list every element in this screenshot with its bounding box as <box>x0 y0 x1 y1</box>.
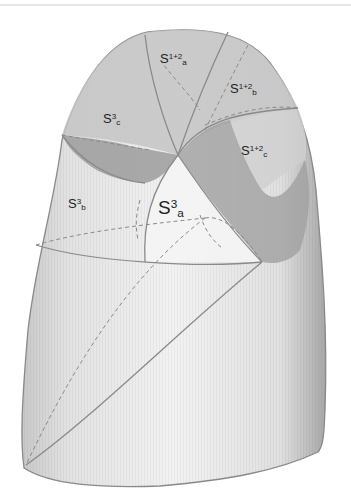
label-sub: c <box>116 118 120 127</box>
lung-lobe-diagram <box>0 0 351 501</box>
label-base: S <box>241 143 250 158</box>
label-sup: 1+2 <box>169 52 183 61</box>
label-s12a: S1+2a <box>160 52 187 67</box>
label-sub: a <box>182 58 186 67</box>
label-base: S <box>230 81 239 96</box>
label-s12b: S1+2b <box>230 82 257 97</box>
label-sub: b <box>81 203 85 212</box>
label-sup: 1+2 <box>250 144 264 153</box>
label-sub: b <box>252 88 256 97</box>
label-sub: c <box>263 150 267 159</box>
label-sub: a <box>177 206 184 219</box>
label-base: S <box>68 196 77 211</box>
label-s3b: S3b <box>68 197 86 212</box>
label-base: S <box>160 51 169 66</box>
label-s12c: S1+2c <box>241 144 267 159</box>
label-base: S <box>103 111 112 126</box>
label-base: S <box>158 197 171 218</box>
label-s3c: S3c <box>103 112 120 127</box>
label-sup: 1+2 <box>239 82 253 91</box>
label-s3a: S3a <box>158 198 184 219</box>
